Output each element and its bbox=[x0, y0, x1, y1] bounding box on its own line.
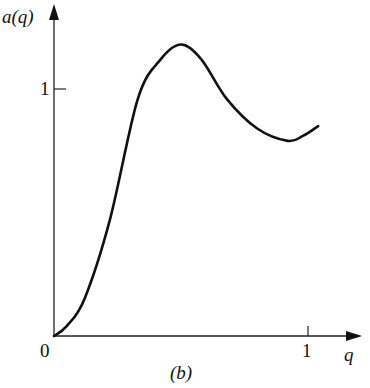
y-tick-label-1: 1 bbox=[40, 78, 50, 100]
chart-canvas bbox=[0, 0, 370, 388]
x-axis-arrow-icon bbox=[346, 331, 362, 341]
x-axis-label: q bbox=[344, 344, 354, 366]
data-curve bbox=[54, 45, 318, 336]
y-axis-label: a(q) bbox=[2, 6, 34, 28]
origin-label: 0 bbox=[40, 340, 50, 362]
x-tick-label-1: 1 bbox=[302, 340, 312, 362]
figure-caption: (b) bbox=[170, 362, 192, 384]
y-axis-arrow-icon bbox=[49, 4, 59, 20]
